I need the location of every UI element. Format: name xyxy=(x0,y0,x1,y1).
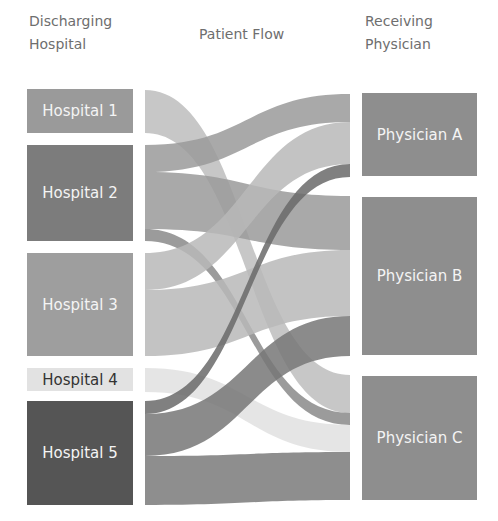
physician-label: Physician B xyxy=(377,267,463,285)
flow-link[interactable] xyxy=(145,452,350,505)
physician-node[interactable]: Physician C xyxy=(362,376,477,500)
hospital-node[interactable]: Hospital 5 xyxy=(27,401,133,505)
hospital-node[interactable]: Hospital 1 xyxy=(27,89,133,133)
hospital-label: Hospital 1 xyxy=(42,102,118,120)
hospital-label: Hospital 4 xyxy=(42,371,118,389)
hospital-label: Hospital 3 xyxy=(42,296,118,314)
physician-label: Physician A xyxy=(377,126,463,144)
hospital-label: Hospital 5 xyxy=(42,444,118,462)
hospital-node[interactable]: Hospital 4 xyxy=(27,368,133,391)
hospital-label: Hospital 2 xyxy=(42,184,118,202)
physician-label: Physician C xyxy=(377,429,463,447)
hospital-node[interactable]: Hospital 3 xyxy=(27,253,133,356)
physician-node[interactable]: Physician B xyxy=(362,197,477,355)
physician-node[interactable]: Physician A xyxy=(362,93,477,176)
hospital-node[interactable]: Hospital 2 xyxy=(27,145,133,241)
